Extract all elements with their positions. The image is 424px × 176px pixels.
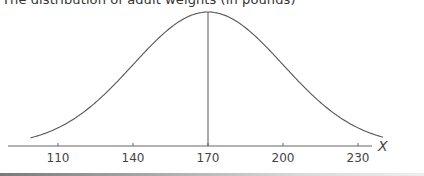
x-axis-label: X xyxy=(378,138,388,154)
x-tick-label: 200 xyxy=(272,151,295,165)
x-tick-label: 230 xyxy=(347,151,370,165)
x-tick-label: 140 xyxy=(122,151,145,165)
bottom-separator xyxy=(0,173,424,176)
chart-plot-area xyxy=(0,0,424,176)
x-tick-label: 170 xyxy=(197,151,220,165)
normal-curve xyxy=(31,12,384,138)
x-tick-label: 110 xyxy=(47,151,70,165)
